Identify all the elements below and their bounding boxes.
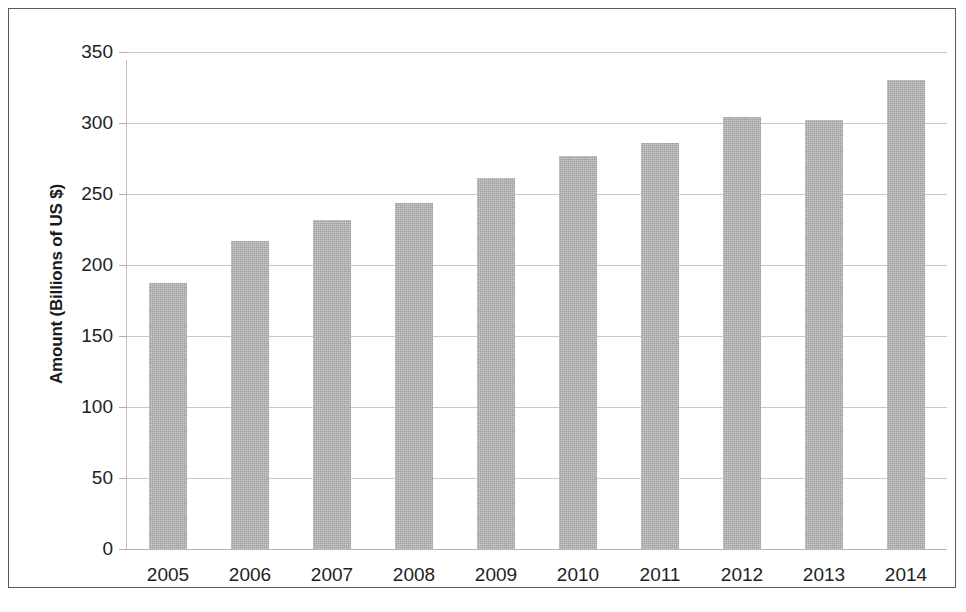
y-axis-tick-mark bbox=[119, 336, 127, 337]
y-axis-tick-mark bbox=[119, 123, 127, 124]
y-axis-tick-label: 0 bbox=[51, 539, 113, 558]
y-axis-tick-label: 350 bbox=[51, 42, 113, 61]
y-axis-tick-label: 50 bbox=[51, 468, 113, 487]
y-axis-tick-label: 200 bbox=[51, 255, 113, 274]
x-axis-tick-label: 2009 bbox=[456, 564, 536, 586]
bar bbox=[887, 80, 925, 549]
bar bbox=[395, 203, 433, 549]
gridline bbox=[127, 549, 947, 550]
bar bbox=[805, 120, 843, 549]
y-axis-tick-mark bbox=[119, 478, 127, 479]
x-axis-tick-label: 2008 bbox=[374, 564, 454, 586]
x-axis-tick-label: 2005 bbox=[128, 564, 208, 586]
y-axis-tick-label: 100 bbox=[51, 397, 113, 416]
bar bbox=[723, 117, 761, 549]
y-axis-tick-label: 150 bbox=[51, 326, 113, 345]
bar bbox=[559, 156, 597, 549]
bar bbox=[641, 143, 679, 549]
chart-frame: Amount (Billions of US $) 05010015020025… bbox=[8, 8, 956, 588]
x-axis-tick-label: 2012 bbox=[702, 564, 782, 586]
bar bbox=[477, 178, 515, 549]
x-axis-tick-label: 2010 bbox=[538, 564, 618, 586]
y-axis-tick-mark bbox=[119, 265, 127, 266]
y-axis-tick-mark bbox=[119, 194, 127, 195]
x-axis-tick-label: 2007 bbox=[292, 564, 372, 586]
x-axis-tick-label: 2013 bbox=[784, 564, 864, 586]
bar bbox=[313, 220, 351, 549]
bar bbox=[149, 283, 187, 549]
x-axis-tick-label: 2011 bbox=[620, 564, 700, 586]
x-axis-tick-label: 2014 bbox=[866, 564, 946, 586]
y-axis-tick-label: 300 bbox=[51, 113, 113, 132]
y-axis-tick-label: 250 bbox=[51, 184, 113, 203]
y-axis-tick-mark bbox=[119, 52, 127, 53]
plot-area bbox=[127, 52, 947, 549]
x-axis-tick-label: 2006 bbox=[210, 564, 290, 586]
y-axis-tick-mark bbox=[119, 407, 127, 408]
y-axis-tick-mark bbox=[119, 549, 127, 550]
bar bbox=[231, 241, 269, 549]
gridline bbox=[127, 52, 947, 53]
